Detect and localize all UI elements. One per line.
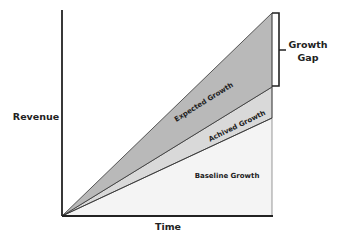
growth-gap-bracket [272, 13, 286, 86]
x-axis-label: Time [155, 221, 181, 232]
y-axis-label: Revenue [13, 111, 59, 122]
growth-gap-diagram: Expected Growth Achived Growth Baseline … [0, 0, 343, 245]
growth-gap-label-line2: Gap [297, 52, 318, 63]
baseline-growth-label: Baseline Growth [195, 172, 260, 180]
growth-gap-label-line1: Growth [288, 39, 327, 50]
